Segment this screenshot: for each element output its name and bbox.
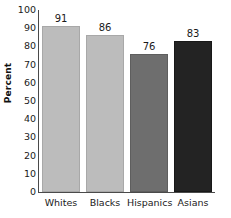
y-axis-tick-label: 60: [10, 78, 36, 88]
x-axis-category-label: Hispanics: [127, 197, 171, 209]
bar: [42, 26, 80, 192]
y-axis-tick-label: 40: [10, 114, 36, 124]
bar-group: 76: [127, 10, 171, 192]
x-axis-category-label: Asians: [171, 197, 215, 209]
bar-group: 91: [39, 10, 83, 192]
plot-area: 91867683: [39, 10, 215, 192]
bar-chart: Percent 1009080706050403020100 91867683 …: [0, 0, 231, 218]
bar-value-label: 76: [127, 41, 171, 52]
x-axis-category-label: Blacks: [83, 197, 127, 209]
bar: [174, 41, 212, 192]
y-axis-tick-label: 80: [10, 41, 36, 51]
x-axis-category-labels: WhitesBlacksHispanicsAsians: [39, 195, 215, 215]
y-axis-tick-label: 30: [10, 132, 36, 142]
bar-value-label: 83: [171, 28, 215, 39]
y-axis-tick-label: 20: [10, 151, 36, 161]
bar: [130, 54, 168, 192]
y-axis-tick-label: 10: [10, 169, 36, 179]
y-axis-tick-label: 90: [10, 23, 36, 33]
x-axis-category-label: Whites: [39, 197, 83, 209]
x-axis-line: [38, 192, 215, 193]
y-axis-tick-label: 70: [10, 60, 36, 70]
bar-value-label: 91: [39, 13, 83, 24]
y-axis-tick-label: 50: [10, 96, 36, 106]
y-axis-tick-label: 0: [10, 187, 36, 197]
y-axis-tick-label: 100: [10, 5, 36, 15]
bar-value-label: 86: [83, 22, 127, 33]
y-axis-tick-labels: 1009080706050403020100: [10, 0, 36, 218]
bar-group: 83: [171, 10, 215, 192]
bar: [86, 35, 124, 192]
bar-group: 86: [83, 10, 127, 192]
